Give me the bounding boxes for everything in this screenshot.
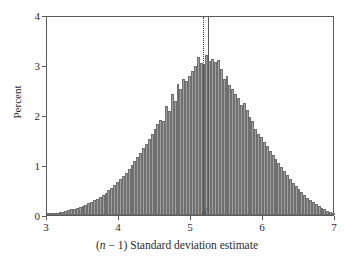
x-tick-label: 5 xyxy=(187,221,193,233)
x-tick-label: 7 xyxy=(331,221,337,233)
sigma-hat-annotation: σ̂ xyxy=(202,208,206,217)
x-axis-title: (n − 1) Standard deviation estimate xyxy=(0,239,354,251)
y-tick-label: 2 xyxy=(20,110,40,122)
histogram-bars xyxy=(47,17,333,215)
x-tick-mark xyxy=(190,216,191,220)
y-axis-title: Percent xyxy=(11,67,23,137)
y-tick-label: 0 xyxy=(20,210,40,222)
x-tick-mark xyxy=(334,216,335,220)
x-tick-mark xyxy=(118,216,119,220)
x-tick-mark xyxy=(262,216,263,220)
plot-area xyxy=(46,16,334,216)
histogram-bar xyxy=(332,213,335,215)
y-tick-label: 4 xyxy=(20,10,40,22)
solid-reference-line xyxy=(208,17,209,215)
x-tick-label: 4 xyxy=(115,221,121,233)
x-tick-label: 6 xyxy=(259,221,265,233)
y-tick-label: 1 xyxy=(20,160,40,172)
histogram-figure: Percent 01234 34567 σ̂ (n − 1) Standard … xyxy=(0,0,354,267)
y-tick-label: 3 xyxy=(20,60,40,72)
x-axis-title-rest: − 1) Standard deviation estimate xyxy=(106,239,258,251)
x-tick-mark xyxy=(46,216,47,220)
dotted-reference-line xyxy=(203,17,204,215)
x-tick-label: 3 xyxy=(43,221,49,233)
